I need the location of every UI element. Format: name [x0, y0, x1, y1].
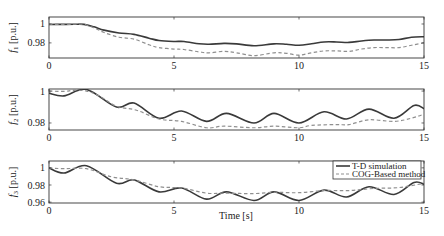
x-tick-label: 10 [294, 132, 304, 143]
y-tick-label: 1 [40, 162, 45, 173]
x-tick-label: 5 [172, 132, 177, 143]
legend-cog-label: COG-Based method [352, 169, 426, 179]
x-tick-label: 15 [419, 205, 429, 216]
y-tick-label: 0.98 [28, 37, 46, 48]
x-tick-label: 0 [47, 205, 52, 216]
td-simulation-series-line [49, 89, 424, 123]
td-simulation-series-line [49, 24, 424, 46]
y-tick-label: 1 [40, 18, 45, 29]
y-axis-label: f2 [p.u.] [7, 94, 20, 124]
x-tick-label: 0 [47, 132, 52, 143]
x-tick-label: 5 [172, 60, 177, 71]
x-tick-label: 5 [172, 205, 177, 216]
y-axis-label: f3 [p.u.] [7, 167, 20, 197]
y-tick-label: 0.98 [28, 180, 46, 191]
y-tick-label: 0.98 [28, 117, 46, 128]
y-tick-label: 0.96 [28, 197, 46, 208]
x-tick-label: 15 [419, 60, 429, 71]
panel-f1: 05101510.98f1 [p.u.] [7, 17, 429, 71]
x-tick-label: 10 [294, 60, 304, 71]
plot-frame [49, 17, 424, 58]
frequency-chart: 05101510.98f1 [p.u.] 05101510.98f2 [p.u.… [0, 0, 444, 236]
y-axis-label: f1 [p.u.] [7, 22, 20, 52]
legend: T-D simulation COG-Based method [333, 161, 426, 179]
x-tick-label: 0 [47, 60, 52, 71]
x-tick-label: 15 [419, 132, 429, 143]
y-tick-label: 1 [40, 86, 45, 97]
x-axis-label: Time [s] [219, 210, 253, 221]
x-tick-label: 10 [294, 205, 304, 216]
panel-f2: 05101510.98f2 [p.u.] [7, 86, 429, 143]
